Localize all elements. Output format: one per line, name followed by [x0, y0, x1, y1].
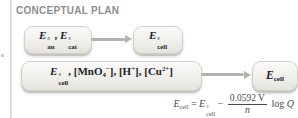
arrow-head [125, 35, 132, 43]
nernst-equation: Ecell = E°cell − 0.0592 Vn log Q [138, 91, 294, 117]
conceptual-plan-diagram: CONCEPTUAL PLAN E°an, E°cat E°cell E°cel… [0, 0, 298, 118]
result-box-standard-cell-potential: E°cell [133, 26, 183, 54]
given-box-standard-potentials: E°an, E°cat [24, 26, 92, 54]
result-formula: Ecell [266, 70, 284, 83]
given-formula: E°cell, [MnO4−], [H+], [Cu2+] [50, 66, 173, 86]
section-heading: CONCEPTUAL PLAN [16, 4, 119, 16]
arrow-line [91, 38, 125, 41]
result-box-cell-potential: Ecell [252, 61, 298, 91]
flow-arrow-icon [91, 34, 132, 44]
given-box-concentrations: E°cell, [MnO4−], [H+], [Cu2+] [21, 61, 202, 91]
equation-formula: Ecell = E°cell − 0.0592 Vn log Q [173, 98, 294, 109]
arrow-line [201, 73, 244, 76]
result-formula: E°cell [149, 30, 167, 50]
flow-arrow-icon [201, 69, 251, 80]
arrow-head [244, 71, 251, 79]
given-formula: E°an, E°cat [39, 30, 77, 50]
print-artifact-dot [1, 54, 4, 57]
column-rule [10, 0, 12, 118]
